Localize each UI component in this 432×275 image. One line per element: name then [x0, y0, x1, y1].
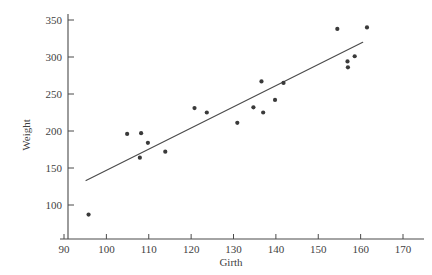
y-axis-title: Weight	[20, 119, 32, 151]
data-point	[365, 25, 369, 29]
data-point	[353, 54, 357, 58]
data-point	[125, 132, 129, 136]
x-tick-label: 170	[395, 243, 412, 255]
y-tick-label: 300	[46, 51, 63, 63]
plot-canvas: 90100110120130140150160170 1001502002503…	[0, 0, 432, 275]
data-point	[259, 79, 263, 83]
data-points	[86, 25, 369, 216]
data-point	[273, 98, 277, 102]
y-axis-ticks	[68, 20, 74, 205]
x-axis-tick-labels: 90100110120130140150160170	[59, 243, 412, 255]
data-point	[86, 213, 90, 217]
x-tick-label: 130	[225, 243, 242, 255]
x-tick-label: 90	[59, 243, 71, 255]
data-point	[251, 105, 255, 109]
x-tick-label: 120	[183, 243, 200, 255]
x-tick-label: 100	[98, 243, 115, 255]
x-axis-ticks	[64, 234, 403, 239]
data-point	[138, 156, 142, 160]
data-point	[281, 81, 285, 85]
data-point	[235, 121, 239, 125]
y-tick-label: 250	[46, 88, 63, 100]
x-tick-label: 110	[141, 243, 158, 255]
data-point	[346, 65, 350, 69]
data-point	[146, 141, 150, 145]
scatter-plot-figure: 90100110120130140150160170 1001502002503…	[0, 0, 432, 275]
data-point	[261, 110, 265, 114]
data-point	[192, 106, 196, 110]
x-axis-title: Girth	[219, 256, 243, 268]
data-point	[139, 131, 143, 135]
y-tick-label: 200	[46, 125, 63, 137]
y-tick-label: 150	[46, 162, 63, 174]
data-point	[163, 150, 167, 154]
x-tick-label: 150	[310, 243, 327, 255]
data-point	[335, 27, 339, 31]
data-point	[205, 110, 209, 114]
x-tick-label: 140	[268, 243, 285, 255]
regression-line	[86, 42, 363, 180]
x-tick-label: 160	[352, 243, 369, 255]
regression-line-segment	[86, 42, 363, 180]
y-axis-tick-labels: 100150200250300350	[46, 14, 63, 211]
axis-spines	[60, 14, 424, 239]
data-point	[345, 59, 349, 63]
y-tick-label: 350	[46, 14, 63, 26]
y-tick-label: 100	[46, 199, 63, 211]
